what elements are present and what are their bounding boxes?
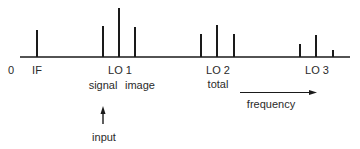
lo2-label: LO 2 [206, 64, 230, 76]
if-label: IF [32, 64, 42, 76]
spectral-lines [37, 8, 333, 57]
frequency-label: frequency [247, 98, 295, 110]
lo3-label: LO 3 [305, 64, 329, 76]
lo1-label: LO 1 [108, 64, 132, 76]
input-arrow-icon [101, 106, 106, 124]
origin-label: 0 [8, 64, 14, 76]
frequency-arrow-icon [240, 90, 317, 95]
input-label: input [92, 131, 116, 143]
total-label: total [208, 78, 229, 90]
signal-label: signal [89, 79, 118, 91]
image-label: image [125, 79, 155, 91]
